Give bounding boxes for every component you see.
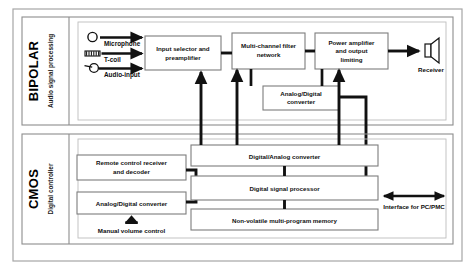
section-title-bipolar: BIPOLAR: [26, 40, 41, 101]
section-subtitle-cmos: Digital controller: [47, 163, 55, 214]
block-label-power-amplifier-line3: limiting: [341, 56, 363, 63]
block-filter-network: Multi-channel filter network: [232, 33, 305, 69]
block-remote-control: Remote control receiver and decoder: [77, 155, 186, 180]
block-adc-bipolar: Analog/Digital converter: [263, 86, 339, 110]
block-adc-cmos: Analog/Digital converter: [77, 192, 186, 214]
block-label-memory: Non-volatile multi-program memory: [232, 217, 337, 224]
input-label-tcoil: T-coil: [104, 56, 121, 63]
block-label-input-selector-line1: Input selector and: [156, 45, 210, 52]
diagram-canvas: BIPOLAR Audio signal processing Micropho…: [0, 0, 475, 270]
block-label-adc-bipolar-line1: Analog/Digital: [280, 90, 322, 97]
block-label-dsp: Digital signal processor: [249, 185, 320, 192]
block-label-adc-cmos: Analog/Digital converter: [96, 200, 168, 207]
block-dsp: Digital signal processor: [191, 176, 378, 200]
block-label-remote-control-line2: and decoder: [113, 168, 150, 175]
microphone-icon: [88, 32, 97, 41]
block-label-adc-bipolar-line2: converter: [287, 98, 316, 105]
block-memory: Non-volatile multi-program memory: [191, 209, 378, 230]
block-label-filter-network-line2: network: [257, 51, 281, 58]
section-subtitle-bipolar: Audio signal processing: [47, 34, 55, 108]
annotation-label-receiver: Receiver: [418, 66, 444, 73]
annotation-label-pc-interface: Interface for PC/PMC: [383, 203, 445, 210]
block-input-selector: Input selector and preamplifier: [145, 36, 221, 70]
block-label-power-amplifier-line1: Power amplifier: [328, 39, 375, 46]
block-dac: Digital/Analog converter: [191, 145, 378, 166]
coil-icon: [85, 51, 100, 56]
input-label-microphone: Microphone: [104, 40, 141, 48]
annotation-label-volume-control: Manual volume control: [98, 227, 166, 234]
block-label-dac: Digital/Analog converter: [249, 153, 321, 160]
block-label-remote-control-line1: Remote control receiver: [96, 159, 167, 166]
input-label-audio-input: Audio-input: [104, 71, 141, 79]
block-label-input-selector-line2: preamplifier: [165, 54, 201, 61]
block-label-power-amplifier-line2: and output: [336, 47, 368, 54]
block-power-amplifier: Power amplifier and output limiting: [315, 33, 388, 69]
block-label-filter-network-line1: Multi-channel filter: [241, 42, 297, 49]
section-title-cmos: CMOS: [26, 169, 41, 209]
